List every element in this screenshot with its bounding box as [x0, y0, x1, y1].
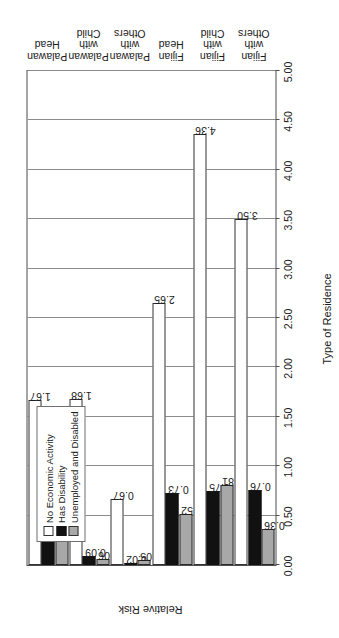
bar-group: 3.500.760.36 [234, 71, 275, 565]
bar-value-label: 0.73 [167, 484, 187, 496]
legend-label: Has Disability [55, 465, 66, 523]
legend-swatch-icon [68, 526, 78, 536]
y-axis-tick [275, 366, 279, 367]
y-axis-tick-label: 4.50 [281, 111, 293, 131]
y-axis-tick [275, 70, 279, 71]
legend-swatch-icon [56, 526, 66, 536]
bar-value-label: 1.68 [71, 390, 91, 402]
y-axis-tick [275, 169, 279, 170]
y-axis-tick [275, 515, 279, 516]
bar-value-label: 4.36 [195, 125, 215, 137]
y-axis-tick [275, 465, 279, 466]
y-axis-tick [275, 416, 279, 417]
y-axis-tick-label: 4.00 [281, 161, 293, 181]
bar-unemployed-and-disabled[interactable] [179, 514, 192, 565]
chart-legend: No Economic ActivityHas DisabilityUnempl… [36, 406, 85, 542]
y-axis-tick-label: 3.00 [281, 259, 293, 279]
y-axis-tick-label: 0.00 [281, 556, 293, 576]
bar-no-economic-activity[interactable] [110, 499, 123, 565]
bar-no-economic-activity[interactable] [234, 219, 247, 565]
category-label: Palawan with Others [109, 28, 150, 63]
y-axis-tick-label: 1.00 [281, 457, 293, 477]
bar-no-economic-activity[interactable] [193, 134, 206, 565]
bar-group: 2.650.730.52 [151, 71, 192, 565]
bar-has-disability[interactable] [206, 491, 219, 565]
y-axis-tick-label: 2.00 [281, 358, 293, 378]
y-axis-tick [275, 564, 279, 565]
bar-unemployed-and-disabled[interactable] [261, 529, 274, 565]
bar-value-label: 3.50 [237, 210, 257, 222]
y-axis-tick-label: 2.50 [281, 309, 293, 329]
y-axis-tick [275, 317, 279, 318]
bar-value-label: 1.67 [30, 391, 50, 403]
bar-no-economic-activity[interactable] [152, 303, 165, 565]
y-axis-tick [275, 218, 279, 219]
bar-group: 4.360.750.81 [192, 71, 233, 565]
legend-label: No Economic Activity [43, 434, 54, 523]
y-axis-tick [275, 119, 279, 120]
y-axis-title: Relative Risk [118, 604, 182, 616]
legend-item[interactable]: Unemployed and Disabled [68, 412, 79, 536]
legend-label: Unemployed and Disabled [68, 412, 79, 523]
category-label: Palawan Head [26, 39, 67, 62]
bar-value-label: 2.65 [154, 294, 174, 306]
bar-has-disability[interactable] [165, 493, 178, 565]
y-axis-tick [275, 268, 279, 269]
chart-page: 0.000.501.001.502.002.503.003.504.004.50… [0, 0, 339, 638]
rotated-chart-wrapper: 0.000.501.001.502.002.503.003.504.004.50… [0, 0, 339, 638]
category-label: Fijian with Child [191, 28, 232, 63]
bar-unemployed-and-disabled[interactable] [220, 485, 233, 565]
category-label: Fijian Head [150, 39, 191, 62]
x-axis-title: Type of Residence [320, 273, 332, 364]
legend-item[interactable]: No Economic Activity [43, 412, 54, 536]
legend-item[interactable]: Has Disability [55, 412, 66, 536]
bar-value-label: 0.67 [113, 490, 133, 502]
y-axis-tick-label: 3.50 [281, 210, 293, 230]
bar-has-disability[interactable] [248, 490, 261, 565]
bar-value-label: 0.76 [250, 481, 270, 493]
category-label: Palawan with Child [67, 28, 108, 63]
bar-chart: 0.000.501.001.502.002.503.003.504.004.50… [0, 0, 339, 638]
bar-group: 0.670.020.05 [110, 71, 151, 565]
y-axis-tick-label: 1.50 [281, 408, 293, 428]
legend-swatch-icon [43, 526, 53, 536]
category-label: Fijian with Others [233, 28, 274, 63]
bar-value-label: 0.36 [264, 520, 284, 532]
y-axis-tick-label: 5.00 [281, 62, 293, 82]
